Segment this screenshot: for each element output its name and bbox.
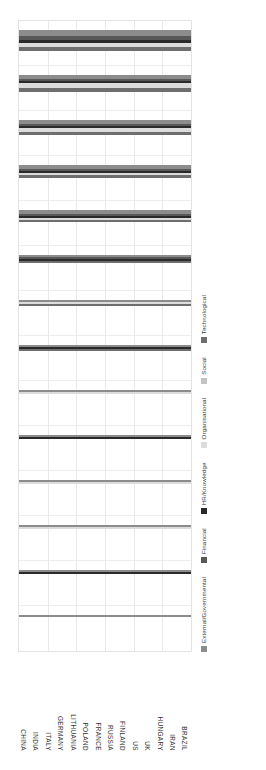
category-tick-label: US [130, 656, 142, 756]
bar-segment[interactable] [19, 165, 191, 169]
bar-slot [19, 381, 191, 426]
category-tick-label: ITALY [43, 656, 55, 756]
category-tick-label: POLAND [80, 656, 92, 756]
stacked-bar[interactable] [19, 210, 191, 236]
bar-segment[interactable] [19, 88, 191, 92]
legend-label: Social [201, 357, 207, 375]
bar-segment[interactable] [19, 124, 191, 126]
bar-segment[interactable] [19, 128, 191, 132]
bar-segment[interactable] [19, 482, 191, 484]
bar-segment[interactable] [19, 259, 191, 261]
bar-slot [19, 426, 191, 471]
stacked-bar[interactable] [19, 255, 191, 281]
bar-segment[interactable] [19, 36, 191, 40]
legend-item[interactable]: Organisational [201, 398, 207, 449]
bar-segment[interactable] [19, 47, 191, 51]
stacked-bar[interactable] [19, 390, 191, 416]
bar-slot [19, 471, 191, 516]
bar-segment[interactable] [19, 175, 191, 179]
legend-swatch-icon [201, 378, 207, 384]
bar-segment[interactable] [19, 480, 191, 482]
bar-segment[interactable] [19, 257, 191, 259]
chart-figure: CHINAINDIAITALYGERMANYLITHUANIAPOLANDFRA… [0, 0, 266, 770]
bar-segment[interactable] [19, 572, 191, 574]
bar-segment[interactable] [19, 40, 191, 44]
bar-segment[interactable] [19, 132, 191, 136]
category-tick-label: RUSSIA [105, 656, 117, 756]
legend-swatch-icon [201, 557, 207, 563]
bar-segment[interactable] [19, 304, 191, 306]
legend-label: HR/Knowledge [201, 462, 207, 505]
category-tick-label: CHINA [18, 656, 30, 756]
legend-swatch-icon [201, 442, 207, 448]
stacked-bar[interactable] [19, 120, 191, 146]
stacked-bar[interactable] [19, 345, 191, 371]
bar-segment[interactable] [19, 525, 191, 527]
bar-segment[interactable] [19, 43, 191, 47]
stacked-bar[interactable] [19, 615, 191, 641]
bar-segment[interactable] [19, 75, 191, 79]
bar-segment[interactable] [19, 171, 191, 173]
rotated-chart-frame: CHINAINDIAITALYGERMANYLITHUANIAPOLANDFRA… [0, 0, 266, 770]
bar-segment[interactable] [19, 347, 191, 349]
bar-segment[interactable] [19, 210, 191, 214]
stacked-bar[interactable] [19, 480, 191, 506]
bar-segment[interactable] [19, 120, 191, 124]
bar-slot [19, 21, 191, 66]
bar-segment[interactable] [19, 216, 191, 218]
stacked-bar[interactable] [19, 165, 191, 191]
bar-segment[interactable] [19, 615, 191, 617]
bar-segment[interactable] [19, 261, 191, 263]
bar-segment[interactable] [19, 218, 191, 220]
stacked-bar[interactable] [19, 435, 191, 461]
bar-slot [19, 336, 191, 381]
bar-segment[interactable] [19, 437, 191, 439]
bar-segment[interactable] [19, 345, 191, 347]
bar-slot [19, 516, 191, 561]
category-tick-label: FRANCE [93, 656, 105, 756]
category-axis: CHINAINDIAITALYGERMANYLITHUANIAPOLANDFRA… [18, 656, 192, 756]
legend-item[interactable]: External/Governmental [201, 577, 207, 652]
category-tick-label: HUNGARY [155, 656, 167, 756]
bar-segment[interactable] [19, 30, 191, 36]
bar-segment[interactable] [19, 527, 191, 529]
legend-item[interactable]: Social [201, 357, 207, 384]
bar-segment[interactable] [19, 392, 191, 394]
bar-segment[interactable] [19, 300, 191, 302]
bar-segment[interactable] [19, 83, 191, 89]
bar-segment[interactable] [19, 214, 191, 216]
bar-slot [19, 291, 191, 336]
bar-segment[interactable] [19, 302, 191, 304]
legend-swatch-icon [201, 508, 207, 514]
stacked-bar[interactable] [19, 75, 191, 101]
category-tick-label: INDIA [30, 656, 42, 756]
legend-swatch-icon [201, 337, 207, 343]
legend-item[interactable]: Financial [201, 528, 207, 563]
bar-segment[interactable] [19, 349, 191, 351]
bar-segment[interactable] [19, 435, 191, 437]
bar-slot [19, 561, 191, 606]
stacked-bar[interactable] [19, 300, 191, 326]
bar-segment[interactable] [19, 255, 191, 257]
legend-item[interactable]: Technological [201, 295, 207, 343]
stacked-bar[interactable] [19, 525, 191, 551]
bar-segment[interactable] [19, 126, 191, 128]
bar-segment[interactable] [19, 81, 191, 83]
stacked-bar[interactable] [19, 30, 191, 56]
category-tick-label: BRAZIL [179, 656, 191, 756]
stacked-bar[interactable] [19, 570, 191, 596]
legend-item[interactable]: HR/Knowledge [201, 462, 207, 514]
legend-label: Organisational [201, 398, 207, 440]
category-tick-label: IRAN [167, 656, 179, 756]
bar-segment[interactable] [19, 169, 191, 171]
bar-segment[interactable] [19, 220, 191, 222]
bar-segment[interactable] [19, 570, 191, 572]
category-tick-label: UK [142, 656, 154, 756]
bar-segment[interactable] [19, 173, 191, 175]
category-tick-label: FINLAND [117, 656, 129, 756]
plot-area [18, 20, 192, 652]
bar-slot [19, 156, 191, 201]
bar-segment[interactable] [19, 79, 191, 81]
bar-slot [19, 606, 191, 651]
bar-segment[interactable] [19, 390, 191, 392]
